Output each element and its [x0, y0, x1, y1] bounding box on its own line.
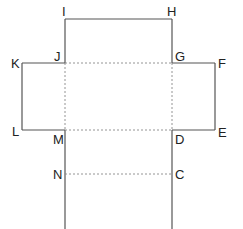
label-K: K	[11, 56, 20, 71]
label-I: I	[62, 4, 66, 19]
label-C: C	[175, 167, 184, 182]
label-E: E	[218, 125, 227, 140]
label-G: G	[175, 49, 185, 64]
label-J: J	[54, 49, 61, 64]
label-F: F	[218, 56, 226, 71]
label-H: H	[167, 4, 176, 19]
label-N: N	[53, 167, 62, 182]
label-M: M	[53, 132, 64, 147]
net-diagram: I H J G K F L E M D N C	[0, 0, 243, 229]
label-L: L	[12, 124, 19, 139]
label-D: D	[175, 132, 184, 147]
